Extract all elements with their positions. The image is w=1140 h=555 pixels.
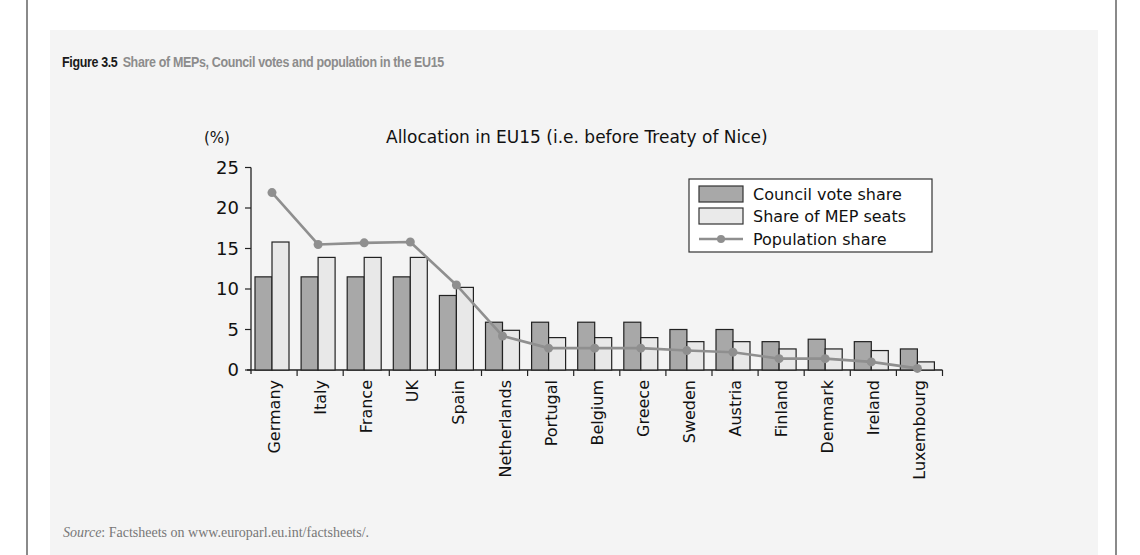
- legend-swatch-council: [699, 186, 743, 202]
- chart-title: Allocation in EU15 (i.e. before Treaty o…: [386, 127, 768, 147]
- x-tick-label: Finland: [772, 380, 791, 437]
- x-tick-label: Luxembourg: [910, 380, 929, 480]
- bar-mep-seats: [549, 338, 566, 370]
- population-marker: [544, 344, 553, 353]
- population-marker: [682, 346, 691, 355]
- population-marker: [867, 357, 876, 366]
- bar-mep-seats: [410, 257, 427, 370]
- y-tick-label: 20: [216, 197, 239, 218]
- x-tick-label: Ireland: [864, 380, 883, 435]
- population-marker: [913, 364, 922, 373]
- x-tick-label: Denmark: [818, 379, 837, 453]
- legend: Council vote share Share of MEP seats Po…: [689, 179, 932, 252]
- population-marker: [452, 280, 461, 289]
- y-tick-label: 15: [216, 238, 239, 259]
- population-marker: [498, 331, 507, 340]
- x-tick-label: Austria: [726, 380, 745, 437]
- legend-label-population: Population share: [753, 230, 887, 249]
- y-axis-label: (%): [204, 129, 230, 147]
- bar-council-vote: [393, 277, 410, 370]
- population-marker: [268, 188, 277, 197]
- x-tick-label: Sweden: [680, 380, 699, 443]
- population-marker: [821, 354, 830, 363]
- x-axis-labels: GermanyItalyFranceUKSpainNetherlandsPort…: [265, 379, 929, 479]
- bar-mep-seats: [272, 242, 289, 370]
- bar-council-vote: [486, 322, 503, 370]
- y-tick-label: 10: [216, 278, 239, 299]
- population-marker: [314, 240, 323, 249]
- y-tick-label: 0: [228, 359, 239, 380]
- source-label: Source: [63, 525, 101, 540]
- legend-label-council: Council vote share: [753, 185, 902, 204]
- x-tick-label: Belgium: [588, 380, 607, 446]
- x-tick-label: Spain: [449, 380, 468, 425]
- population-marker: [636, 344, 645, 353]
- y-tick-label: 5: [228, 319, 239, 340]
- legend-label-mep: Share of MEP seats: [753, 207, 906, 226]
- population-marker: [729, 348, 738, 357]
- bar-mep-seats: [595, 338, 612, 370]
- bar-mep-seats: [641, 338, 658, 370]
- y-tick-label: 25: [216, 157, 239, 178]
- source-text: : Factsheets on www.europarl.eu.int/fact…: [101, 525, 369, 540]
- x-tick-label: Netherlands: [496, 380, 515, 478]
- bar-mep-seats: [318, 257, 335, 370]
- source-note: Source: Factsheets on www.europarl.eu.in…: [63, 525, 369, 541]
- population-marker: [360, 238, 369, 247]
- population-marker: [775, 354, 784, 363]
- bar-council-vote: [854, 342, 871, 370]
- x-tick-label: France: [357, 380, 376, 433]
- x-tick-label: Italy: [311, 380, 330, 415]
- legend-marker-population: [717, 235, 725, 243]
- bar-council-vote: [808, 339, 825, 370]
- x-tick-label: Greece: [634, 380, 653, 437]
- bar-council-vote: [255, 277, 272, 370]
- x-tick-label: Germany: [265, 380, 284, 454]
- bar-council-vote: [439, 295, 456, 370]
- population-marker: [406, 238, 415, 247]
- legend-swatch-mep: [699, 208, 743, 224]
- bar-council-vote: [347, 277, 364, 370]
- x-tick-label: UK: [403, 379, 422, 402]
- bar-mep-seats: [364, 257, 381, 370]
- population-marker: [590, 344, 599, 353]
- x-tick-label: Portugal: [542, 380, 561, 446]
- bar-mep-seats: [687, 342, 704, 370]
- chart: Allocation in EU15 (i.e. before Treaty o…: [0, 0, 1140, 555]
- bar-council-vote: [301, 277, 318, 370]
